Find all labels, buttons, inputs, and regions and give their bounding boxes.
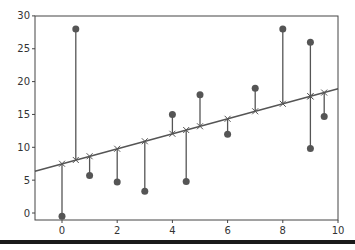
data-point xyxy=(183,178,190,185)
y-tick-label: 0 xyxy=(24,208,30,219)
chart: 0510152025300246810 xyxy=(0,0,355,250)
x-tick-label: 6 xyxy=(224,225,230,236)
data-point xyxy=(72,26,79,33)
data-point xyxy=(86,172,93,179)
data-point xyxy=(307,145,314,152)
y-tick-label: 25 xyxy=(17,43,30,54)
y-tick-label: 5 xyxy=(24,175,30,186)
axes-frame xyxy=(35,16,338,220)
data-point xyxy=(321,113,328,120)
data-point xyxy=(307,39,314,46)
y-tick-label: 20 xyxy=(17,76,30,87)
data-point xyxy=(169,111,176,118)
data-point xyxy=(141,188,148,195)
x-tick-label: 2 xyxy=(114,225,120,236)
plot-area xyxy=(35,26,338,220)
x-tick-label: 0 xyxy=(59,225,65,236)
data-point xyxy=(252,85,259,92)
y-tick-label: 15 xyxy=(17,109,30,120)
x-tick-label: 10 xyxy=(332,225,345,236)
y-tick-label: 30 xyxy=(17,10,30,21)
data-point xyxy=(279,26,286,33)
y-tick-label: 10 xyxy=(17,142,30,153)
x-tick-label: 4 xyxy=(169,225,175,236)
data-point xyxy=(197,91,204,98)
data-point xyxy=(224,131,231,138)
axes: 0510152025300246810 xyxy=(17,10,344,236)
bottom-divider xyxy=(0,240,355,244)
data-point xyxy=(114,179,121,186)
x-tick-label: 8 xyxy=(280,225,286,236)
data-point xyxy=(59,213,66,220)
